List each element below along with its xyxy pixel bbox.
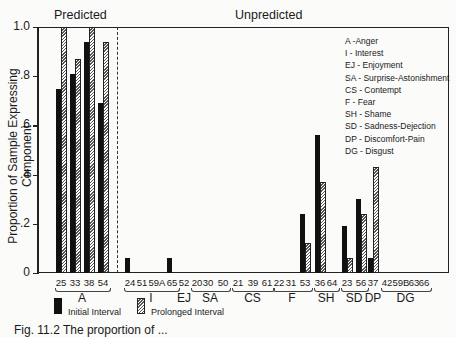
x-tick-label: 65: [167, 277, 178, 288]
legend-entry: SA - Surprise-Astonishment: [345, 72, 449, 84]
figure-caption: Fig. 11.2 The proportion of ...: [14, 323, 168, 337]
predicted-divider: [117, 27, 118, 273]
legend-entry: I - Interest: [345, 47, 449, 59]
legend-entry: EJ - Enjoyment: [345, 59, 449, 71]
prolonged-swatch: [137, 298, 145, 314]
prolonged-bar: [361, 214, 367, 273]
group-label: EJ: [177, 291, 191, 305]
x-tick-label: 25: [56, 277, 67, 288]
x-tick-label: 21: [233, 277, 244, 288]
x-tick-label: 42: [382, 277, 393, 288]
y-tick-label: .8: [10, 68, 30, 82]
x-tick-label: 54: [98, 277, 109, 288]
prolonged-bar: [347, 258, 353, 273]
y-tick: [33, 27, 38, 28]
prolonged-bar: [320, 182, 326, 273]
legend-entry: SH - Shame: [345, 108, 449, 120]
legend-entry: F - Fear: [345, 96, 449, 108]
legend-entry: DP - Discomfort-Pain: [345, 133, 449, 145]
group-label: A: [78, 291, 86, 305]
x-tick-label: 51: [137, 277, 148, 288]
x-tick-label: 37: [368, 277, 379, 288]
group-label: DP: [365, 291, 382, 305]
x-tick-label: 59A: [149, 277, 166, 288]
x-tick-label: 52: [179, 277, 190, 288]
legend-entry: DG - Disgust: [345, 145, 449, 157]
prolonged-bar: [89, 27, 95, 273]
predicted-label: Predicted: [54, 8, 107, 22]
x-tick-label: 31: [286, 277, 297, 288]
prolonged-bar: [373, 167, 379, 273]
x-tick-label: 53: [300, 277, 311, 288]
initial-bar: [167, 258, 173, 273]
x-tick-label: 61: [262, 277, 273, 288]
group-label: SD: [346, 291, 363, 305]
x-tick-label: 33: [70, 277, 81, 288]
prolonged-bar: [61, 27, 67, 273]
prolonged-legend-label: Prolonged Interval: [151, 307, 224, 317]
legend-entry: A -Anger: [345, 35, 449, 47]
group-label: F: [288, 291, 295, 305]
y-tick: [33, 224, 38, 225]
x-tick-label: 36: [315, 277, 326, 288]
x-tick-label: 20: [192, 277, 203, 288]
x-tick-label: 22: [274, 277, 285, 288]
y-tick-label: 1.0: [10, 19, 30, 33]
y-tick: [33, 125, 38, 126]
initial-legend-label: Initial Interval: [68, 307, 121, 317]
y-tick: [33, 175, 38, 176]
x-tick-label: 50: [218, 277, 229, 288]
group-label: SA: [202, 291, 218, 305]
prolonged-bar: [103, 42, 109, 273]
y-tick-label: .6: [10, 117, 30, 131]
group-label: I: [149, 291, 152, 305]
group-label: CS: [244, 291, 261, 305]
x-tick-label: 66: [419, 277, 430, 288]
y-tick-label: .4: [10, 167, 30, 181]
initial-bar: [125, 258, 131, 273]
y-tick: [33, 76, 38, 77]
x-tick-label: 23: [342, 277, 353, 288]
initial-swatch: [54, 298, 62, 314]
x-tick-label: 30: [203, 277, 214, 288]
unpredicted-label: Unpredicted: [235, 8, 302, 22]
legend-entry: CS - Contempt: [345, 84, 449, 96]
x-tick-label: 24: [125, 277, 136, 288]
legend-entry: SD - Sadness-Dejection: [345, 120, 449, 132]
y-tick-label: 0: [10, 265, 30, 279]
y-tick: [33, 273, 38, 274]
x-tick-label: 63: [409, 277, 420, 288]
group-label: SH: [318, 291, 335, 305]
x-tick-label: 39: [248, 277, 259, 288]
x-tick-label: 59B: [393, 277, 410, 288]
x-tick-label: 56: [356, 277, 367, 288]
x-tick-label: 64: [327, 277, 338, 288]
prolonged-bar: [305, 243, 311, 273]
group-label: DG: [397, 291, 415, 305]
x-tick-label: 38: [84, 277, 95, 288]
y-tick-label: .2: [10, 216, 30, 230]
abbreviation-legend: A -AngerI - InterestEJ - EnjoymentSA - S…: [345, 35, 449, 157]
prolonged-bar: [75, 59, 81, 273]
